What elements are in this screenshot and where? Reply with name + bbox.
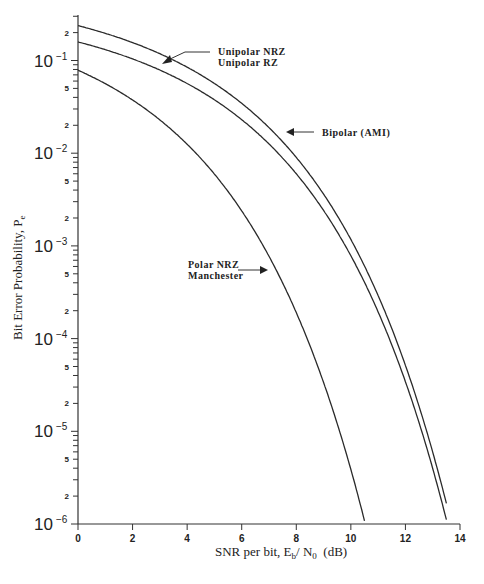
y-minor-tick-label: 2 <box>65 214 70 223</box>
y-minor-tick-label: 2 <box>65 307 70 316</box>
y-major-tick-label: 10−3 <box>34 236 68 256</box>
axes: 024681012142525252525210−110−210−310−410… <box>34 15 466 544</box>
svg-text:10: 10 <box>34 52 53 71</box>
svg-text:−4: −4 <box>56 329 68 340</box>
unipolar-arrow-line <box>168 52 210 60</box>
x-tick-label: 8 <box>294 533 300 544</box>
svg-text:10: 10 <box>34 515 53 534</box>
annotation-polar: Polar NRZ Manchester <box>188 259 268 281</box>
x-tick-label: 14 <box>454 533 466 544</box>
y-major-tick-label: 10−5 <box>34 421 68 441</box>
curves <box>78 26 446 521</box>
annotation-unipolar: Unipolar NRZ Unipolar RZ <box>162 46 286 68</box>
x-tick-label: 2 <box>130 533 136 544</box>
y-minor-tick-label: 5 <box>65 363 70 372</box>
y-major-tick-label: 10−4 <box>34 329 68 349</box>
svg-text:−2: −2 <box>56 143 68 154</box>
x-tick-label: 0 <box>75 533 81 544</box>
curve-unipolar <box>78 42 446 520</box>
bipolar-label: Bipolar (AMI) <box>322 127 390 139</box>
polar-label-1: Polar NRZ <box>188 259 239 270</box>
svg-text:10: 10 <box>34 422 53 441</box>
svg-text:10: 10 <box>34 237 53 256</box>
y-minor-tick-label: 5 <box>65 84 70 93</box>
x-tick-label: 12 <box>400 533 412 544</box>
y-axis-label: Bit Error Probability, Pe <box>10 216 27 341</box>
annotation-bipolar: Bipolar (AMI) <box>286 127 390 139</box>
unipolar-label-1: Unipolar NRZ <box>218 46 286 57</box>
y-minor-tick-label: 2 <box>65 121 70 130</box>
y-minor-tick-label: 5 <box>65 177 70 186</box>
curve-bipolar-ami <box>78 26 446 504</box>
y-minor-tick-label: 5 <box>65 270 70 279</box>
y-minor-tick-label: 2 <box>65 492 70 501</box>
ber-chart: 024681012142525252525210−110−210−310−410… <box>0 0 484 584</box>
arrow-head-icon <box>286 128 294 136</box>
svg-text:−1: −1 <box>56 51 68 62</box>
y-minor-tick-label: 2 <box>65 399 70 408</box>
x-tick-label: 6 <box>239 533 245 544</box>
arrow-head-icon <box>260 266 268 274</box>
unipolar-label-2: Unipolar RZ <box>218 57 278 68</box>
svg-text:−6: −6 <box>56 514 68 525</box>
x-axis-label: SNR per bit, Eb/ N0 (dB) <box>215 544 347 561</box>
y-minor-tick-label: 5 <box>65 455 70 464</box>
y-minor-tick-label: 2 <box>65 29 70 38</box>
polar-label-2: Manchester <box>188 270 244 281</box>
x-tick-label: 10 <box>345 533 357 544</box>
x-tick-label: 4 <box>184 533 190 544</box>
svg-text:10: 10 <box>34 330 53 349</box>
y-major-tick-label: 10−1 <box>34 51 68 71</box>
y-major-tick-label: 10−2 <box>34 143 68 163</box>
y-major-tick-label: 10−6 <box>34 514 68 534</box>
svg-text:10: 10 <box>34 144 53 163</box>
svg-text:−3: −3 <box>56 236 68 247</box>
svg-text:−5: −5 <box>56 421 68 432</box>
